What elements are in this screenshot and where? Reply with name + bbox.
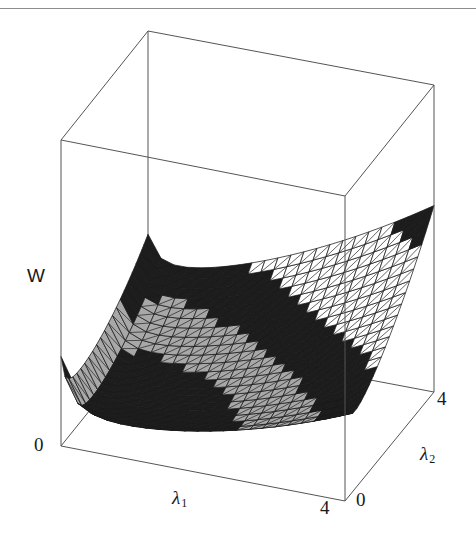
surface-plot-figure: W 0 λ1 4 λ2 0 4 [0, 0, 476, 550]
y-axis-label-text: λ [420, 443, 428, 464]
y-axis-label: λ2 [420, 443, 435, 467]
y-min-tick-label: 0 [356, 489, 366, 511]
surface-mesh [61, 206, 434, 432]
y-axis-label-subscript: 2 [428, 452, 435, 466]
plot-canvas [0, 0, 476, 550]
z-origin-tick-label: 0 [34, 434, 44, 456]
x-max-tick-label: 4 [320, 497, 330, 519]
x-axis-label-text: λ [172, 487, 180, 508]
y-max-tick-label: 4 [437, 388, 447, 410]
x-axis-label-subscript: 1 [180, 496, 187, 510]
z-axis-label: W [27, 265, 45, 287]
x-axis-label: λ1 [172, 487, 187, 511]
